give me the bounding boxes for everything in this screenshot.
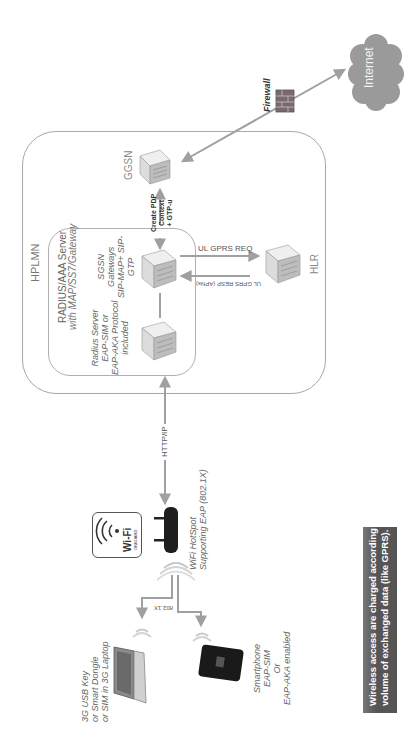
wifi-logo-text: Wi-Fi ONBOARD (124, 528, 140, 552)
sgsn-server-icon (138, 250, 182, 290)
wifi-router-icon (152, 505, 182, 555)
http-ip-label: HTTP/IP (160, 426, 170, 457)
internet-label: Internet (362, 47, 376, 88)
ul-gprs-resp-label: UL GPRS RESP (APNs) (196, 279, 261, 289)
laptop-icon (110, 645, 150, 705)
firewall-label: Firewall (262, 78, 272, 112)
dot1x-label: 802.1X (154, 603, 173, 613)
radius-server-icon (138, 322, 182, 362)
cloud-icon (346, 32, 406, 112)
ggsn-label: GGSN (124, 151, 134, 180)
wifi-hotspot-label: WiFi HotSpot Supporting EAP (802.1X) (188, 469, 208, 570)
hlr-server-icon (262, 245, 306, 285)
ggsn-server-icon (136, 150, 176, 186)
hlr-label: HLR (310, 254, 320, 274)
firewall-icon (274, 88, 298, 114)
billing-note-text: Wireless access are charged according to… (367, 500, 391, 706)
create-pdp-label: Create PDP Context + GTP-u (150, 194, 174, 232)
wifi-icon (95, 517, 125, 547)
radius-server-label: Radius Server EAP-SIM or EAP-AKA Protoco… (90, 301, 130, 375)
smartphone-icon (196, 645, 246, 681)
smartphone-label: Smartphone EAP-SIM Or EAP-AKA enabled (252, 632, 292, 705)
ul-gprs-req-label: UL GPRS REQ (198, 244, 252, 254)
laptop-label: 3G USB Key or Smart Dongle or SIM in 3G … (80, 641, 110, 722)
sgsn-label: SGSN Gateways SIP-MAP+ SIP- GTP (96, 236, 136, 298)
